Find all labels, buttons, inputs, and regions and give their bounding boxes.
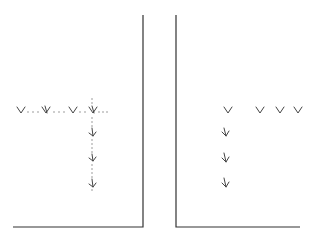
arrow-down-icon [89,128,96,136]
x-mark [42,106,50,113]
left-dotted-row [27,111,107,112]
y-mark [224,107,232,113]
left-panel-frame [13,15,143,227]
arrow-down-icon [222,178,229,187]
right-panel [176,15,300,227]
left-column-marks [89,128,96,187]
y-mark [256,107,264,113]
right-row-marks [224,107,302,113]
arrow-down-icon [222,153,229,162]
right-panel-frame [176,15,300,227]
arrow-down-icon [89,179,96,187]
y-mark [69,107,77,113]
diagram-canvas [0,0,316,240]
y-mark [276,107,284,113]
x-mark [89,106,97,113]
y-mark [17,107,25,113]
right-column-marks [222,128,229,187]
arrow-down-icon [222,128,229,136]
arrow-down-icon [89,154,96,161]
left-panel [13,15,143,227]
y-mark [294,107,302,113]
